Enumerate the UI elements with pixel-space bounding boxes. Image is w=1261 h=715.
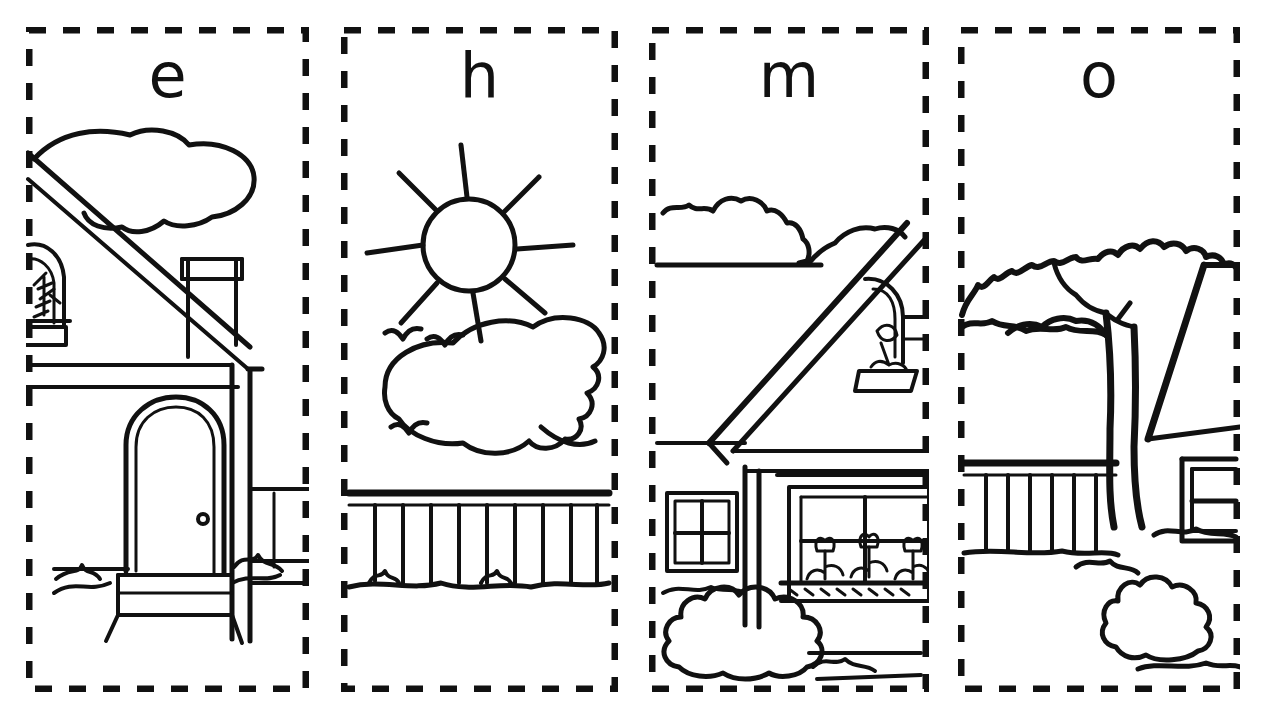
panel-o-letter: o	[958, 45, 1240, 107]
panel-letter-e[interactable]: e	[26, 27, 309, 692]
panel-m-letter: m	[649, 45, 929, 107]
panel-h-letter: h	[341, 45, 618, 107]
panel-e-artwork	[26, 27, 309, 692]
worksheet-page: e	[0, 0, 1261, 715]
panel-letter-o[interactable]: o	[958, 27, 1240, 692]
panel-m-artwork	[649, 27, 929, 692]
panel-h-artwork	[341, 27, 618, 692]
panel-letter-h[interactable]: h	[341, 27, 618, 692]
panel-e-letter: e	[26, 45, 309, 107]
panel-o-artwork	[958, 27, 1240, 692]
panel-letter-m[interactable]: m	[649, 27, 929, 692]
